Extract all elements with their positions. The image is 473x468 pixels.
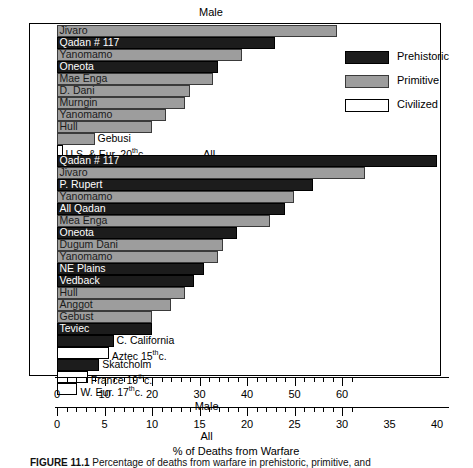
axis-tick-minor bbox=[190, 407, 191, 412]
axis-tick-minor bbox=[143, 407, 144, 412]
axis-tick-label: 50 bbox=[288, 388, 300, 400]
all-axis-name: All bbox=[201, 430, 213, 442]
legend-label: Civilized bbox=[397, 98, 438, 110]
axis-tick-major bbox=[152, 377, 153, 386]
axis-tick-minor bbox=[143, 377, 144, 382]
axis-tick-minor bbox=[209, 407, 210, 412]
axis-tick-major bbox=[200, 377, 201, 386]
axis-tick-minor bbox=[314, 407, 315, 412]
axis-tick-major bbox=[295, 377, 296, 386]
axis-tick-major bbox=[57, 407, 58, 416]
bar-row: C. California bbox=[30, 335, 440, 347]
axis-tick-minor bbox=[190, 377, 191, 382]
bar-row: Teviec bbox=[30, 323, 440, 335]
axis-tick-major bbox=[57, 377, 58, 386]
axis-tick-major bbox=[247, 407, 248, 416]
axis-tick-minor bbox=[228, 407, 229, 412]
axis-tick-minor bbox=[238, 407, 239, 412]
legend-swatch-civilized bbox=[345, 99, 389, 112]
male-axis: 0102030405060Male bbox=[0, 377, 473, 407]
axis-tick-minor bbox=[133, 377, 134, 382]
bar-row: Qadan # 117 bbox=[30, 155, 440, 167]
axis-tick-minor bbox=[333, 407, 334, 412]
axis-tick-major bbox=[200, 407, 201, 416]
axis-tick-minor bbox=[76, 377, 77, 382]
figure-caption-label: FIGURE 11.1 bbox=[30, 457, 89, 468]
axis-tick-minor bbox=[162, 377, 163, 382]
axis-tick-minor bbox=[219, 377, 220, 382]
axis-tick-label: 35 bbox=[383, 418, 395, 430]
axis-tick-label: 0 bbox=[54, 418, 60, 430]
axis-tick-minor bbox=[124, 407, 125, 412]
axis-tick-major bbox=[105, 377, 106, 386]
axis-tick-major bbox=[247, 377, 248, 386]
axis-tick-minor bbox=[114, 377, 115, 382]
axis-tick-minor bbox=[257, 377, 258, 382]
figure-caption: FIGURE 11.1 Percentage of deaths from wa… bbox=[30, 457, 470, 468]
axis-tick-minor bbox=[219, 407, 220, 412]
bar-label: Teviec bbox=[60, 322, 90, 335]
axis-tick-minor bbox=[266, 407, 267, 412]
axis-tick-major bbox=[152, 407, 153, 416]
axis-tick-major bbox=[342, 377, 343, 386]
bar-primitive bbox=[57, 167, 366, 179]
axis-tick-minor bbox=[323, 407, 324, 412]
bar-row: Vedback bbox=[30, 275, 440, 287]
axis-tick-minor bbox=[162, 407, 163, 412]
axis-tick-major bbox=[342, 407, 343, 416]
bar-prehistoric bbox=[57, 335, 114, 347]
axis-tick-minor bbox=[114, 407, 115, 412]
axis-tick-minor bbox=[67, 377, 68, 382]
axis-tick-label: 0 bbox=[54, 388, 60, 400]
bar-row: Aztec 15thc. bbox=[30, 347, 440, 359]
axis-tick-minor bbox=[171, 377, 172, 382]
bar-row: Hull bbox=[30, 121, 440, 133]
axis-tick-label: 40 bbox=[431, 418, 443, 430]
bar-row: Gebust bbox=[30, 311, 440, 323]
axis-tick-label: 20 bbox=[146, 388, 158, 400]
legend-swatch-primitive bbox=[345, 75, 389, 88]
axis-tick-minor bbox=[314, 377, 315, 382]
axis-tick-label: 60 bbox=[336, 388, 348, 400]
axis-tick-label: 30 bbox=[193, 388, 205, 400]
axis-tick-minor bbox=[304, 407, 305, 412]
axis-tick-minor bbox=[285, 407, 286, 412]
axis-tick-major bbox=[105, 407, 106, 416]
axis-tick-label: 10 bbox=[146, 418, 158, 430]
axis-tick-minor bbox=[276, 407, 277, 412]
axis-tick-minor bbox=[238, 377, 239, 382]
axis-tick-label: 20 bbox=[241, 418, 253, 430]
axis-tick-minor bbox=[181, 407, 182, 412]
axis-tick-minor bbox=[67, 407, 68, 412]
figure-chart: Male All JivaroQadan # 117YanomamoOneota… bbox=[0, 0, 473, 468]
axis-tick-minor bbox=[352, 407, 353, 412]
axis-tick-minor bbox=[171, 407, 172, 412]
axis-tick-minor bbox=[285, 377, 286, 382]
axis-tick-minor bbox=[95, 407, 96, 412]
axis-tick-minor bbox=[333, 377, 334, 382]
axis-tick-minor bbox=[257, 407, 258, 412]
axis-tick-label: 15 bbox=[193, 418, 205, 430]
legend-label: Prehistoric bbox=[397, 50, 449, 62]
bar-label: Hull bbox=[60, 120, 78, 133]
male-section-title: Male bbox=[199, 6, 223, 18]
axis-tick-major bbox=[295, 407, 296, 416]
axis-tick-label: 40 bbox=[241, 388, 253, 400]
axis-tick-minor bbox=[323, 377, 324, 382]
axis-tick-minor bbox=[276, 377, 277, 382]
axis-tick-label: 30 bbox=[336, 418, 348, 430]
axis-tick-minor bbox=[266, 377, 267, 382]
axis-tick-minor bbox=[209, 377, 210, 382]
axis-tick-label: 25 bbox=[288, 418, 300, 430]
axis-tick-minor bbox=[181, 377, 182, 382]
axis-tick-minor bbox=[76, 407, 77, 412]
axis-tick-label: 10 bbox=[98, 388, 110, 400]
bar-civilized bbox=[57, 347, 109, 359]
axis-tick-label: 5 bbox=[101, 418, 107, 430]
figure-caption-text: Percentage of deaths from warfare in pre… bbox=[92, 457, 370, 468]
axis-tick-minor bbox=[228, 377, 229, 382]
axis-tick-minor bbox=[86, 407, 87, 412]
legend-swatch-prehistoric bbox=[345, 51, 389, 64]
x-axis-title: % of Deaths from Warfare bbox=[173, 445, 300, 457]
axis-tick-minor bbox=[124, 377, 125, 382]
